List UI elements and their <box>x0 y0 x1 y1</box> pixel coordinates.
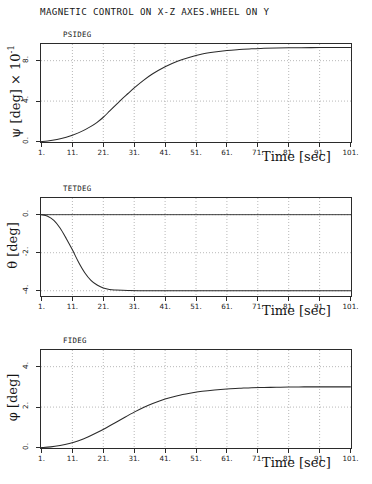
x-tick-mark <box>72 143 73 147</box>
plot-area-psideg <box>40 43 352 143</box>
x-tick-mark <box>257 143 258 147</box>
x-tick-mark <box>41 143 42 147</box>
x-tick-mark <box>103 449 104 453</box>
x-tick-mark <box>165 449 166 453</box>
x-tick-label: 41. <box>151 454 179 463</box>
x-tick-mark <box>72 297 73 301</box>
x-tick-mark <box>350 297 351 301</box>
x-tick-label: 61. <box>213 148 241 157</box>
plot-svg-fideg <box>41 350 351 448</box>
x-tick-mark <box>196 449 197 453</box>
x-tick-mark <box>226 143 227 147</box>
y-tick-label: -4. <box>21 278 30 300</box>
x-tick-mark <box>165 143 166 147</box>
chart-panel-tetdeg: TETDEG θ [deg] 0.-2.-4. 1.11.21.31.41.51… <box>0 170 372 320</box>
x-tick-label: 1. <box>28 302 56 311</box>
plot-area-fideg <box>40 349 352 449</box>
x-tick-label: 11. <box>58 302 86 311</box>
x-tick-label: 41. <box>151 302 179 311</box>
x-tick-mark <box>41 449 42 453</box>
x-tick-mark <box>350 143 351 147</box>
x-tick-mark <box>103 297 104 301</box>
y-tick-mark <box>36 366 40 367</box>
x-tick-label: 21. <box>89 302 117 311</box>
x-tick-mark <box>165 297 166 301</box>
y-tick-label: -2. <box>21 240 30 262</box>
x-tick-mark <box>288 449 289 453</box>
x-tick-mark <box>72 449 73 453</box>
x-tick-label: 31. <box>120 454 148 463</box>
x-tick-mark <box>319 449 320 453</box>
x-tick-label: 11. <box>58 148 86 157</box>
x-axis-label-fideg: Time [sec] <box>262 455 331 470</box>
x-tick-mark <box>288 297 289 301</box>
x-tick-label: 51. <box>182 454 210 463</box>
x-tick-label: 101. <box>337 148 365 157</box>
x-tick-label: 101. <box>337 302 365 311</box>
y-tick-mark <box>36 101 40 102</box>
curve-label-tetdeg: TETDEG <box>63 184 92 193</box>
curve-label-psideg: PSIDEG <box>63 30 92 39</box>
x-tick-label: 101. <box>337 454 365 463</box>
x-tick-label: 1. <box>28 454 56 463</box>
y-tick-mark <box>36 447 40 448</box>
x-tick-mark <box>319 297 320 301</box>
x-tick-label: 21. <box>89 454 117 463</box>
x-tick-label: 51. <box>182 148 210 157</box>
y-tick-label: 4. <box>21 354 30 376</box>
y-tick-mark <box>36 407 40 408</box>
y-axis-label-fideg: φ [deg] <box>5 362 20 434</box>
y-tick-mark <box>36 60 40 61</box>
x-tick-mark <box>257 297 258 301</box>
curve-label-fideg: FIDEG <box>63 336 87 345</box>
x-tick-label: 31. <box>120 148 148 157</box>
x-tick-mark <box>226 297 227 301</box>
x-tick-mark <box>196 143 197 147</box>
x-tick-mark <box>103 143 104 147</box>
y-tick-label: 2. <box>21 395 30 417</box>
y-tick-label: 0. <box>21 202 30 224</box>
x-tick-mark <box>226 449 227 453</box>
x-axis-label-psideg: Time [sec] <box>262 149 331 164</box>
chart-panel-psideg: PSIDEG ψ [deg] × 10-1 0.4.8. 1.11.21.31.… <box>0 22 372 170</box>
x-tick-label: 41. <box>151 148 179 157</box>
x-tick-mark <box>257 449 258 453</box>
figure-title: MAGNETIC CONTROL ON X-Z AXES.WHEEL ON Y <box>40 6 269 17</box>
x-tick-label: 11. <box>58 454 86 463</box>
y-tick-label: 8. <box>21 48 30 70</box>
x-axis-label-tetdeg: Time [sec] <box>262 303 331 318</box>
figure-canvas: MAGNETIC CONTROL ON X-Z AXES.WHEEL ON Y … <box>0 0 372 484</box>
y-tick-mark <box>36 214 40 215</box>
x-tick-label: 61. <box>213 302 241 311</box>
data-curve <box>42 48 351 142</box>
y-axis-label-tetdeg: θ [deg] <box>5 210 20 282</box>
x-tick-mark <box>319 143 320 147</box>
plot-svg-psideg <box>41 44 351 142</box>
x-tick-label: 61. <box>213 454 241 463</box>
plot-area-tetdeg <box>40 197 352 297</box>
y-tick-mark <box>36 290 40 291</box>
y-tick-label: 4. <box>21 89 30 111</box>
x-tick-label: 31. <box>120 302 148 311</box>
y-axis-exponent-psideg: -1 <box>6 45 16 53</box>
y-tick-mark <box>36 141 40 142</box>
x-tick-mark <box>196 297 197 301</box>
x-tick-label: 21. <box>89 148 117 157</box>
x-tick-mark <box>350 449 351 453</box>
x-tick-mark <box>288 143 289 147</box>
x-tick-mark <box>134 143 135 147</box>
x-tick-mark <box>134 449 135 453</box>
x-tick-mark <box>41 297 42 301</box>
x-tick-label: 1. <box>28 148 56 157</box>
x-tick-mark <box>134 297 135 301</box>
chart-panel-fideg: FIDEG φ [deg] 0.2.4. 1.11.21.31.41.51.61… <box>0 320 372 484</box>
y-tick-mark <box>36 252 40 253</box>
plot-svg-tetdeg <box>41 198 351 296</box>
x-tick-label: 51. <box>182 302 210 311</box>
